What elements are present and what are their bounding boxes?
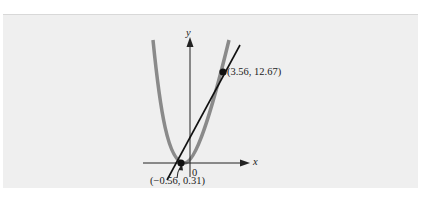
upper-point-label: (3.56, 12.67) (227, 66, 281, 77)
y-axis-label: y (186, 27, 191, 38)
x-axis-label: x (253, 156, 258, 167)
graph (0, 0, 424, 205)
y-axis-arrow-icon (187, 37, 194, 47)
intersection-point-lower (177, 159, 184, 166)
intersection-point-upper (219, 68, 226, 75)
x-axis-arrow-icon (240, 160, 250, 167)
parabola-curve (153, 40, 229, 163)
lower-point-label: (−0.56, 0.31) (150, 175, 205, 186)
